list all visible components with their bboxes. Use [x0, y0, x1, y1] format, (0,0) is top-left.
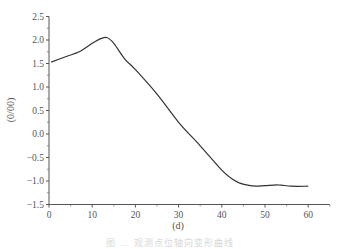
y-tick-label: 2.0 — [32, 35, 44, 45]
y-tick-label: 2.5 — [32, 12, 44, 22]
x-tick-label: 40 — [217, 210, 227, 220]
line-chart: 2.52.01.51.00.50.0−0.5−1.0−1.5 010203040… — [0, 0, 340, 232]
x-tick-label: 60 — [303, 210, 313, 220]
y-tick-label: −1.0 — [27, 176, 44, 186]
x-tick-label: 50 — [260, 210, 270, 220]
x-tick-label: 10 — [87, 210, 97, 220]
y-axis-title: (0/00) — [5, 98, 17, 122]
y-tick-label: 1.5 — [32, 59, 44, 69]
y-tick-label: 0.5 — [32, 106, 44, 116]
figure-caption: 图 … 观测点位轴向变形曲线 — [0, 236, 340, 249]
x-tick-label: 0 — [47, 210, 52, 220]
x-axis-title: (d) — [172, 220, 184, 232]
y-tick-label: −1.5 — [27, 200, 44, 210]
x-axis: 0102030405060 — [47, 205, 330, 220]
x-tick-label: 20 — [131, 210, 141, 220]
data-line — [51, 37, 308, 186]
y-tick-label: 0.0 — [32, 129, 44, 139]
y-tick-label: 1.0 — [32, 82, 44, 92]
y-tick-label: −0.5 — [27, 153, 44, 163]
y-axis: 2.52.01.51.00.50.0−0.5−1.0−1.5 — [27, 12, 49, 210]
x-tick-label: 30 — [174, 210, 184, 220]
